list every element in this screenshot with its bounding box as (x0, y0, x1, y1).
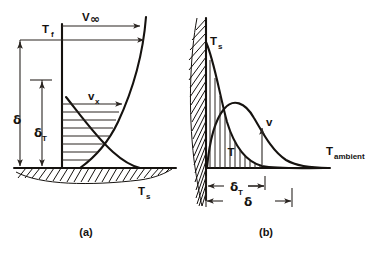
label-delta-t-a-text: δ (34, 126, 42, 140)
label-surface-temperature-a-text: T (138, 185, 145, 197)
label-fluid-temperature-a: T f (42, 23, 54, 39)
temperature-profile-curve-a (66, 97, 140, 168)
label-temperature-profile-b: T (227, 146, 234, 158)
label-delta-t-b-text: δ (230, 180, 238, 194)
label-free-stream-velocity-a-text: V (82, 11, 90, 23)
label-ambient-temperature-b-text: T (326, 145, 333, 157)
label-surface-temperature-b: T s (210, 35, 223, 51)
wall-hatching-b (189, 18, 206, 206)
label-delta-a: δ (13, 113, 21, 127)
plate-hatching-a (16, 168, 172, 184)
label-delta-t-b: δ T (230, 180, 243, 197)
label-delta-b: δ (244, 195, 252, 209)
delta-t-dimension-b: δ T (206, 176, 265, 197)
panel-b-caption: (b) (259, 226, 273, 238)
figure-canvas: T f V ∞ v x δ δ T T s (0, 0, 376, 253)
label-fluid-temperature-a-text: T (42, 23, 49, 35)
label-surface-temperature-b-text: T (210, 35, 217, 47)
label-surface-temperature-a-sub: s (146, 192, 151, 201)
label-velocity-profile-b: v (266, 116, 273, 128)
delta-t-dimension-a (30, 80, 52, 166)
label-delta-t-a-sub: T (42, 134, 47, 143)
label-free-stream-velocity-a: V ∞ (82, 11, 100, 26)
label-velocity-profile-a-text: v (88, 90, 95, 102)
temperature-profile-curve-b (206, 42, 324, 168)
infinity-symbol-icon: ∞ (90, 12, 100, 26)
label-ambient-temperature-b-sub: ambient (334, 152, 365, 161)
label-delta-t-a: δ T (34, 126, 47, 143)
label-ambient-temperature-b: T ambient (326, 145, 365, 161)
panel-a: T f V ∞ v x δ δ T T s (13, 11, 176, 238)
boundary-layer-figure: T f V ∞ v x δ δ T T s (0, 0, 376, 253)
delta-dimension-b: δ (206, 188, 292, 209)
panel-b: v T T s T ambient δ (189, 18, 365, 238)
label-delta-t-b-sub: T (238, 188, 243, 197)
label-surface-temperature-a: T s (138, 185, 151, 201)
label-fluid-temperature-a-sub: f (51, 30, 54, 39)
panel-a-caption: (a) (79, 226, 93, 238)
free-stream-arrows-a (20, 26, 144, 40)
label-velocity-profile-a-sub: x (95, 97, 100, 106)
label-surface-temperature-b-sub: s (218, 42, 223, 51)
